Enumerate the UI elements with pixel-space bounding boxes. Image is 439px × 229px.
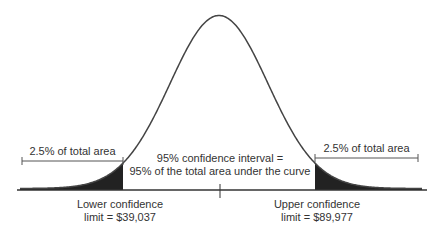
left-tail-label: 2.5% of total area bbox=[22, 145, 123, 158]
normal-curve-diagram bbox=[0, 0, 439, 229]
confidence-interval-line2: 95% of the total area under the curve bbox=[120, 165, 320, 178]
left-tail-bracket bbox=[22, 157, 123, 165]
right-tail-label: 2.5% of total area bbox=[315, 142, 418, 155]
upper-limit-line1: Upper confidence bbox=[267, 198, 367, 211]
confidence-interval-label: 95% confidence interval = 95% of the tot… bbox=[120, 152, 320, 178]
right-tail-bracket bbox=[315, 154, 418, 162]
upper-limit-label: Upper confidence limit = $89,977 bbox=[267, 198, 367, 224]
lower-limit-line1: Lower confidence bbox=[70, 198, 170, 211]
confidence-interval-line1: 95% confidence interval = bbox=[120, 152, 320, 165]
lower-limit-line2: limit = $39,037 bbox=[70, 211, 170, 224]
lower-limit-label: Lower confidence limit = $39,037 bbox=[70, 198, 170, 224]
upper-limit-line2: limit = $89,977 bbox=[267, 211, 367, 224]
